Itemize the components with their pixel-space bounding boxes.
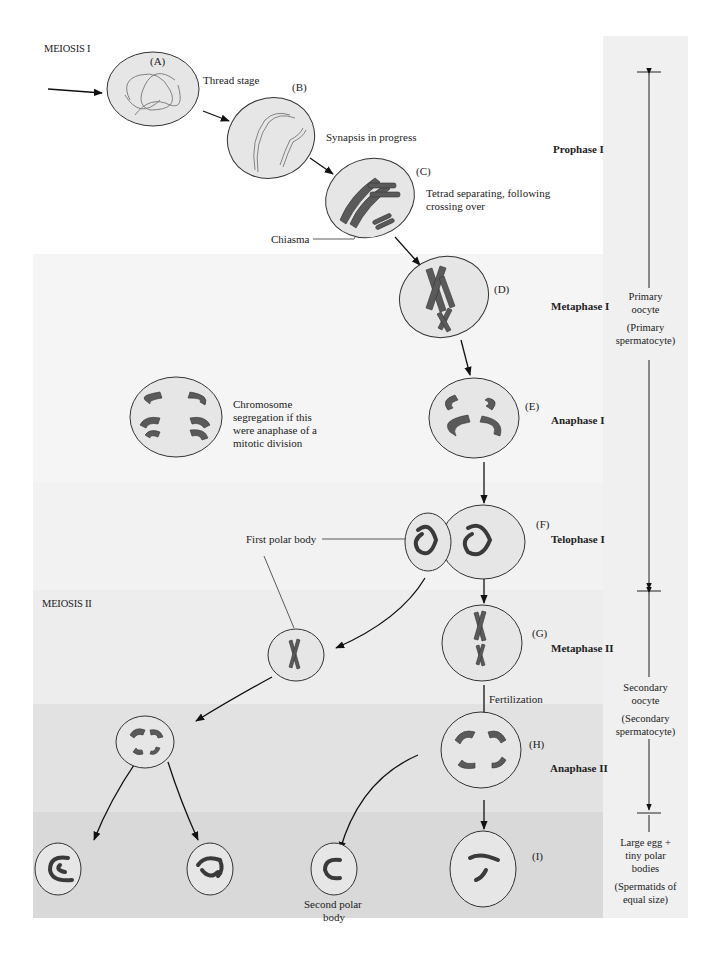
cell-b (216, 85, 326, 190)
stage-e-letter: (E) (525, 400, 539, 413)
cell-d (388, 244, 500, 350)
cell-egg (450, 831, 516, 907)
section-meiosis1: MEIOSIS I (44, 43, 90, 54)
stage-h-letter: (H) (529, 738, 544, 751)
cell-f (441, 505, 525, 579)
cell-h (441, 712, 521, 788)
section-meiosis2: MEIOSIS II (42, 598, 92, 609)
final-egg-3: bodies (603, 862, 688, 875)
secondary-oocyte-1: Secondary (603, 681, 688, 694)
final-egg-1: Large egg + (603, 836, 688, 849)
stage-g-letter: (G) (532, 627, 547, 640)
flow-arrows (48, 89, 484, 850)
final-sperm-2: equal size) (603, 893, 688, 906)
final-egg-2: tiny polar (603, 849, 688, 862)
cell-polar1-a2 (116, 716, 174, 768)
diagram-canvas (0, 0, 723, 968)
final-sperm-1: (Spermatids of (603, 880, 688, 893)
stage-b-desc: Synapsis in progress (326, 131, 416, 144)
secondary-sperm-1: (Secondary (603, 712, 688, 725)
mitotic-compare-2: segregation if this (233, 411, 312, 424)
phase-telophase1: Telophase I (551, 533, 605, 545)
phase-anaphase2: Anaphase II (550, 762, 608, 774)
secondary-sperm-2: spermatocyte) (603, 725, 688, 738)
cell-spermatid-2 (187, 843, 233, 895)
stage-c-letter: (C) (416, 165, 431, 178)
phase-metaphase2: Metaphase II (551, 642, 614, 654)
primary-sperm-2: spermatocyte) (603, 334, 688, 347)
cell-mitotic (130, 377, 222, 457)
stage-i-letter: (I) (532, 850, 543, 863)
cell-e (429, 378, 519, 458)
stage-a-letter: (A) (150, 55, 165, 68)
mitotic-compare-3: were anaphase of a (233, 424, 317, 437)
first-polar-body-label: First polar body (246, 533, 316, 546)
stage-b-letter: (B) (292, 81, 307, 94)
chiasma-label: Chiasma (271, 233, 310, 246)
stage-c-desc-1: Tetrad separating, following (426, 187, 550, 200)
stage-a-desc: Thread stage (203, 74, 260, 87)
mitotic-compare-4: mitotic division (233, 437, 302, 450)
fertilization-label: Fertilization (489, 693, 543, 706)
second-polar-body-1: Second polar (304, 898, 362, 911)
primary-oocyte-2: oocyte (603, 303, 688, 316)
mitotic-compare-1: Chromosome (233, 398, 292, 411)
phase-anaphase1: Anaphase I (551, 414, 605, 426)
phase-prophase1: Prophase I (553, 143, 604, 155)
stage-d-letter: (D) (494, 283, 509, 296)
cell-f-polar (405, 513, 451, 571)
stage-f-letter: (F) (536, 518, 549, 531)
phase-metaphase1: Metaphase I (551, 300, 609, 312)
stage-c-desc-2: crossing over (426, 200, 485, 213)
primary-oocyte-1: Primary (603, 290, 688, 303)
second-polar-body-2: body (323, 911, 345, 924)
cell-second-polar (311, 843, 357, 895)
secondary-oocyte-2: oocyte (603, 694, 688, 707)
primary-sperm-1: (Primary (603, 321, 688, 334)
